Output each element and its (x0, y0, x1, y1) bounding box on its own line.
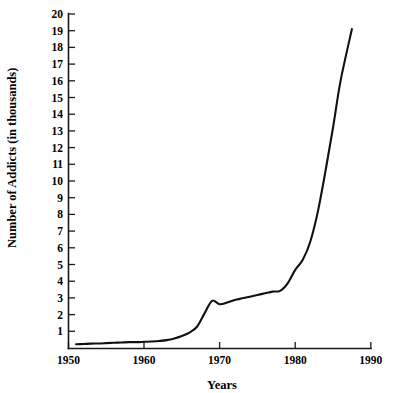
x-axis-ticks: 1950 1960 1970 1980 1990 (57, 342, 383, 366)
line-chart: Number of Addicts (in thousands) Years 2… (0, 0, 395, 393)
y-tick-label: 14 (52, 108, 64, 120)
y-tick-label: 2 (57, 309, 63, 321)
y-tick-label: 7 (57, 225, 63, 237)
y-tick-label: 10 (52, 175, 64, 187)
x-tick-label: 1990 (359, 354, 382, 366)
y-tick-label: 16 (52, 75, 64, 87)
y-tick-label: 17 (52, 58, 64, 70)
y-tick-label: 5 (57, 259, 63, 271)
y-tick-label: 18 (52, 41, 64, 53)
chart-figure: Number of Addicts (in thousands) Years 2… (0, 0, 395, 393)
y-tick-label: 15 (52, 92, 64, 104)
y-tick-label: 11 (52, 158, 63, 170)
data-line-addicts (76, 29, 352, 344)
y-tick-label: 19 (52, 25, 64, 37)
y-tick-label: 9 (57, 192, 63, 204)
x-tick-label: 1960 (133, 354, 156, 366)
y-axis-ticks: 20 19 18 17 16 15 14 13 12 11 10 9 8 (52, 8, 76, 337)
x-tick-label: 1950 (57, 354, 80, 366)
y-tick-label: 1 (57, 325, 63, 337)
y-tick-label: 20 (52, 8, 64, 20)
y-axis-title: Number of Addicts (in thousands) (5, 68, 19, 248)
x-tick-label: 1970 (208, 354, 231, 366)
y-tick-label: 4 (57, 275, 63, 287)
y-tick-label: 13 (52, 125, 64, 137)
x-tick-label: 1980 (284, 354, 307, 366)
x-axis-title: Years (207, 378, 237, 392)
y-tick-label: 3 (57, 292, 63, 304)
y-tick-label: 12 (52, 142, 64, 154)
y-tick-label: 8 (57, 208, 63, 220)
y-tick-label: 6 (57, 242, 63, 254)
